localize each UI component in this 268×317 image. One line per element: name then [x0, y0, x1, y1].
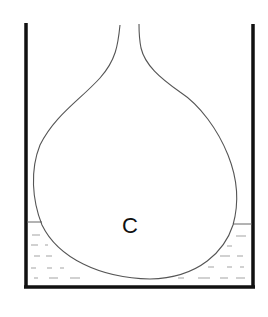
bulb-label: C — [122, 213, 138, 238]
flask-diagram: C — [0, 0, 268, 317]
liquid-dashes — [31, 235, 246, 278]
flask-outline — [33, 24, 236, 279]
